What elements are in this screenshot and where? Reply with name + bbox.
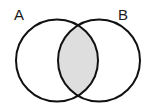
set-a-label: A [14,6,24,23]
venn-diagram: A B [0,0,152,104]
set-b-label: B [118,6,128,23]
